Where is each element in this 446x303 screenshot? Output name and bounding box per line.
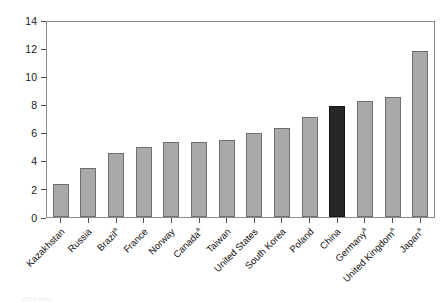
bar [108, 153, 124, 217]
bar-slot [158, 22, 186, 217]
bar-slot [185, 22, 213, 217]
y-axis-tick-label: 10 [25, 72, 41, 83]
x-axis-label-slot: Canadaa [185, 224, 213, 303]
x-axis-label-slot: Poland [296, 224, 324, 303]
bar [163, 142, 179, 217]
y-axis-tick-label: 4 [31, 156, 41, 167]
x-axis-label-slot: Norway [158, 224, 186, 303]
x-axis-label-slot: South Korea [268, 224, 296, 303]
x-axis-label-slot: Russia [75, 224, 103, 303]
x-axis-labels: KazakhstanRussiaBrazilaFranceNorwayCanad… [47, 224, 434, 303]
bar-slot [75, 22, 103, 217]
bar-chart: 02468101214 KazakhstanRussiaBrazilaFranc… [0, 0, 446, 303]
bar-slot [47, 22, 75, 217]
bar-slot [102, 22, 130, 217]
y-axis-tick-label: 12 [25, 44, 41, 55]
bar [357, 101, 373, 217]
bar-slot [296, 22, 324, 217]
bar-slot [351, 22, 379, 217]
bar-slot [130, 22, 158, 217]
x-axis-label-slot: France [130, 224, 158, 303]
bar [53, 184, 69, 217]
bar [246, 133, 262, 217]
bar-series [47, 22, 434, 217]
x-axis-label-slot: Brazila [102, 224, 130, 303]
y-axis-tick-label: 6 [31, 128, 41, 139]
bar-slot [240, 22, 268, 217]
x-axis-label-slot: Japana [406, 224, 434, 303]
bar-slot [213, 22, 241, 217]
x-axis-label-slot: United Kingdoma [379, 224, 407, 303]
x-axis-label-slot: Kazakhstan [47, 224, 75, 303]
y-axis-tick-label: 8 [31, 100, 41, 111]
bar [136, 147, 152, 217]
bar-slot [323, 22, 351, 217]
y-axis-tick-label: 14 [25, 16, 41, 27]
chart-footnote: 2010 data [22, 296, 51, 302]
bar-slot [379, 22, 407, 217]
bar [329, 106, 345, 217]
x-axis-label-slot: China [323, 224, 351, 303]
y-axis-tick-label: 2 [31, 185, 41, 196]
y-axis-tick-label: 0 [31, 213, 41, 224]
